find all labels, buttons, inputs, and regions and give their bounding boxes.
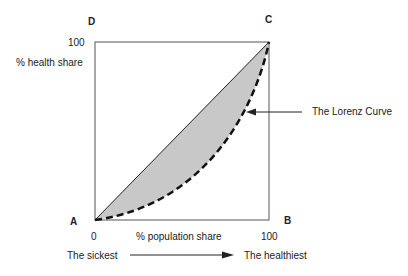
corner-d-label: D — [88, 16, 95, 27]
x-tick-100: 100 — [261, 231, 278, 242]
equality-line — [95, 42, 269, 220]
corner-c-label: C — [265, 14, 272, 25]
x-tick-0: 0 — [91, 231, 97, 242]
y-tick-100: 100 — [68, 37, 85, 48]
sickest-label: The sickest — [67, 250, 118, 261]
healthiest-label: The healthiest — [244, 250, 307, 261]
lorenz-curve-annotation: The Lorenz Curve — [312, 106, 392, 117]
direction-arrowhead — [222, 252, 234, 259]
corner-a-label: A — [70, 216, 77, 227]
x-axis-label: % population share — [136, 231, 222, 242]
lorenz-arrowhead — [246, 109, 256, 116]
y-axis-label: % health share — [16, 57, 83, 68]
corner-b-label: B — [284, 215, 291, 226]
